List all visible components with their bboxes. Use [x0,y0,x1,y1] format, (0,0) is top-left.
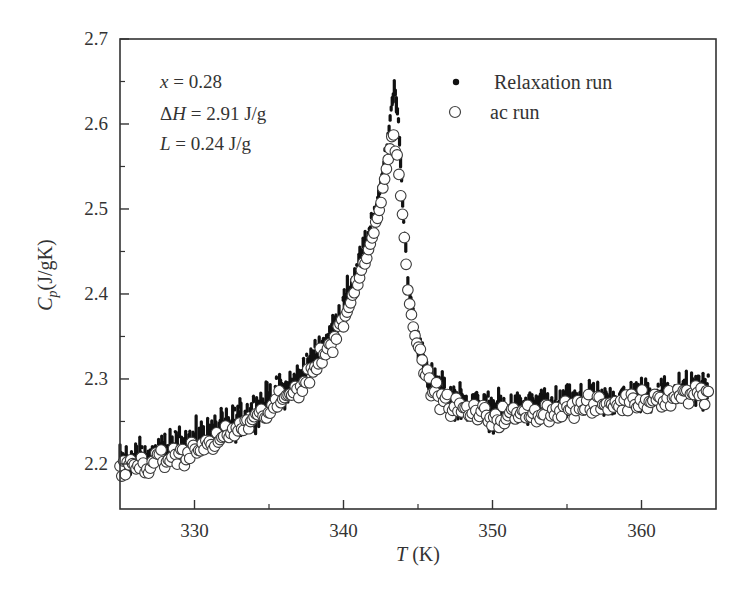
legend-label-ac: ac run [490,101,539,123]
legend-label-relaxation: Relaxation run [494,71,612,93]
y-axis-title: Cp(J/gK) [34,239,60,310]
x-tick-label: 360 [627,520,656,541]
x-axis: 330340350360 [180,500,656,541]
annotation-delta-h: ΔH = 2.91 J/g [160,103,267,124]
cp-vs-temperature-chart: 2.22.32.42.52.62.7 330340350360 x = 0.28… [0,0,747,600]
parameter-annotations: x = 0.28 ΔH = 2.91 J/g L = 0.24 J/g [159,71,267,154]
delta-symbol: Δ [160,103,172,124]
y-tick-label: 2.3 [84,368,108,389]
filled-dot-icon [453,79,459,85]
annotation-l: L = 0.24 J/g [159,133,251,154]
y-axis: 2.22.32.42.52.62.7 [84,28,129,474]
y-tick-label: 2.5 [84,198,108,219]
x-tick-label: 340 [329,520,358,541]
open-circle-icon [450,107,461,118]
x-tick-label: 330 [180,520,209,541]
y-tick-label: 2.6 [84,113,108,134]
x-tick-label: 350 [478,520,507,541]
annotation-x: x = 0.28 [159,71,222,92]
x-axis-title: T (K) [396,543,440,566]
y-tick-label: 2.2 [84,453,108,474]
legend: Relaxation run ac run [450,71,613,123]
y-tick-label: 2.7 [84,28,108,49]
y-tick-label: 2.4 [84,283,108,304]
